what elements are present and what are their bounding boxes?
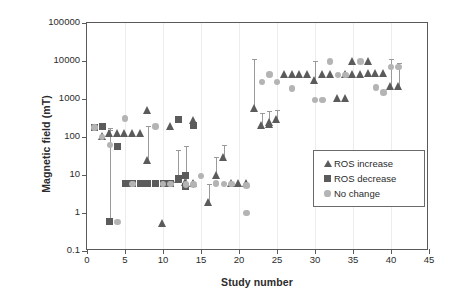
data-point-ros-decrease bbox=[137, 180, 144, 187]
data-point-ros-decrease bbox=[175, 116, 182, 123]
x-axis-tick-label: 15 bbox=[186, 255, 216, 265]
data-point-no-change bbox=[122, 115, 129, 122]
data-point-ros-increase bbox=[326, 70, 334, 78]
data-point-no-change bbox=[198, 173, 205, 180]
data-point-ros-increase bbox=[348, 57, 356, 65]
error-bar-cap bbox=[389, 59, 394, 60]
data-point-ros-increase bbox=[379, 69, 387, 77]
x-axis-tick-label: 30 bbox=[300, 255, 330, 265]
data-point-no-change bbox=[380, 89, 387, 96]
data-point-ros-increase bbox=[212, 171, 220, 179]
data-point-ros-decrease bbox=[182, 172, 189, 179]
chart-figure: Magnetic field (mT) 051015202530354045 0… bbox=[0, 0, 453, 298]
triangle-icon bbox=[321, 160, 334, 167]
gridline-vertical bbox=[239, 23, 240, 249]
x-axis-tick-label: 25 bbox=[262, 255, 292, 265]
data-point-no-change bbox=[319, 97, 326, 104]
error-bar bbox=[254, 59, 255, 109]
data-point-no-change bbox=[357, 58, 364, 65]
error-bar-cap bbox=[313, 61, 318, 62]
error-bar-cap bbox=[267, 111, 272, 112]
x-axis-tick-label: 45 bbox=[414, 255, 444, 265]
legend-item-ros-decrease: ROS decrease bbox=[321, 171, 417, 186]
data-point-ros-increase bbox=[143, 156, 151, 164]
error-bar-cap bbox=[176, 150, 181, 151]
y-axis-tick-label: 100000 bbox=[20, 17, 80, 27]
legend-label: No change bbox=[334, 189, 380, 199]
y-axis-tick-label: 1 bbox=[20, 207, 80, 217]
y-axis-tick bbox=[82, 137, 87, 138]
data-point-ros-decrease bbox=[144, 180, 151, 187]
legend-item-ros-increase: ROS increase bbox=[321, 156, 417, 171]
y-axis-tick bbox=[82, 23, 87, 24]
data-point-ros-increase bbox=[143, 106, 151, 114]
gridline-vertical bbox=[277, 23, 278, 249]
data-point-ros-decrease bbox=[99, 123, 106, 130]
data-point-no-change bbox=[129, 181, 136, 188]
error-bar-cap bbox=[222, 145, 227, 146]
x-axis-tick-label: 10 bbox=[148, 255, 178, 265]
circle-icon bbox=[321, 190, 334, 196]
y-axis-tick-label: 10 bbox=[20, 169, 80, 179]
data-point-no-change bbox=[107, 142, 114, 149]
gridline-vertical bbox=[315, 23, 316, 249]
data-point-ros-increase bbox=[158, 219, 166, 227]
x-axis-title: Study number bbox=[86, 276, 428, 288]
data-point-ros-increase bbox=[219, 153, 227, 161]
gridline-vertical bbox=[391, 23, 392, 249]
data-point-no-change bbox=[183, 181, 190, 188]
data-point-ros-increase bbox=[341, 94, 349, 102]
data-point-no-change bbox=[312, 97, 319, 104]
x-axis-tick-label: 40 bbox=[376, 255, 406, 265]
x-axis-tick-label: 0 bbox=[72, 255, 102, 265]
data-point-no-change bbox=[243, 210, 250, 217]
data-point-no-change bbox=[228, 181, 235, 188]
y-axis-tick bbox=[82, 61, 87, 62]
chart-legend: ROS increase ROS decrease No change bbox=[313, 150, 425, 207]
data-point-no-change bbox=[373, 84, 380, 91]
data-point-no-change bbox=[327, 58, 334, 65]
gridline-vertical bbox=[201, 23, 202, 249]
y-axis-tick-label: 1000 bbox=[20, 93, 80, 103]
data-point-no-change bbox=[213, 180, 220, 187]
legend-label: ROS decrease bbox=[334, 174, 396, 184]
data-point-ros-increase bbox=[136, 129, 144, 137]
data-point-ros-increase bbox=[364, 57, 372, 65]
data-point-ros-decrease bbox=[175, 175, 182, 182]
y-axis-tick bbox=[82, 175, 87, 176]
data-point-ros-increase bbox=[166, 122, 174, 130]
y-axis-tick-label: 0.1 bbox=[20, 245, 80, 255]
error-bar-cap bbox=[207, 184, 212, 185]
data-point-no-change bbox=[395, 64, 402, 71]
error-bar-cap bbox=[184, 146, 189, 147]
data-point-ros-increase bbox=[204, 198, 212, 206]
data-point-no-change bbox=[274, 79, 281, 86]
data-point-no-change bbox=[388, 64, 395, 71]
data-point-no-change bbox=[266, 71, 273, 78]
data-point-ros-decrease bbox=[106, 218, 113, 225]
data-point-ros-decrease bbox=[152, 180, 159, 187]
y-axis-tick-label: 100 bbox=[20, 131, 80, 141]
square-icon bbox=[321, 175, 334, 181]
legend-item-no-change: No change bbox=[321, 186, 417, 201]
data-point-ros-decrease bbox=[114, 143, 121, 150]
data-point-no-change bbox=[167, 181, 174, 188]
data-point-ros-increase bbox=[272, 115, 280, 123]
data-point-ros-increase bbox=[250, 104, 258, 112]
data-point-no-change bbox=[190, 181, 197, 188]
gridline-vertical bbox=[163, 23, 164, 249]
x-axis-tick-label: 5 bbox=[110, 255, 140, 265]
data-point-no-change bbox=[91, 124, 98, 131]
data-point-ros-decrease bbox=[190, 122, 197, 129]
legend-label: ROS increase bbox=[334, 159, 393, 169]
data-point-no-change bbox=[152, 123, 159, 130]
data-point-ros-increase bbox=[394, 82, 402, 90]
data-point-no-change bbox=[259, 79, 266, 86]
error-bar-cap bbox=[252, 59, 257, 60]
plot-area: 051015202530354045 bbox=[86, 22, 428, 250]
data-point-ros-decrease bbox=[122, 180, 129, 187]
error-bar-cap bbox=[260, 113, 265, 114]
data-point-no-change bbox=[289, 85, 296, 92]
error-bar-cap bbox=[275, 110, 280, 111]
error-bar-cap bbox=[146, 126, 151, 127]
